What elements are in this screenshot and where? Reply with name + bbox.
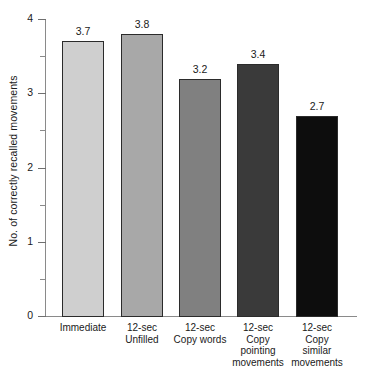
- bar-immediate: [62, 41, 104, 317]
- y-tick-1: [38, 242, 46, 243]
- y-tick-4: [38, 19, 46, 20]
- bar-12sec-copy-pointing-movements: [237, 64, 279, 317]
- y-minor-tick-2-5: [40, 130, 46, 131]
- bar-value-12sec-copy-pointing-movements: 3.4: [233, 49, 283, 60]
- cat-line: 12-sec: [279, 322, 355, 334]
- y-tick-label-4: 4: [9, 13, 33, 24]
- y-tick-0: [38, 316, 46, 317]
- y-axis-label: No. of correctly recalled movements: [7, 11, 19, 311]
- bar-value-12sec-unfilled: 3.8: [117, 19, 167, 30]
- bar-chart: No. of correctly recalled movements 4 3 …: [0, 0, 369, 392]
- cat-line: similar: [279, 345, 355, 357]
- cat-line: movements: [279, 357, 355, 369]
- y-tick-2: [38, 168, 46, 169]
- y-tick-label-3: 3: [9, 87, 33, 98]
- bar-12sec-unfilled: [121, 34, 163, 317]
- bar-12sec-copy-words: [179, 79, 221, 317]
- bar-value-immediate: 3.7: [58, 26, 108, 37]
- bar-value-12sec-copy-similar-movements: 2.7: [292, 101, 342, 112]
- y-tick-label-1: 1: [9, 236, 33, 247]
- y-tick-label-0: 0: [9, 310, 33, 321]
- y-minor-tick-1-5: [40, 205, 46, 206]
- cat-line: Copy: [279, 334, 355, 346]
- y-tick-3: [38, 93, 46, 94]
- bar-12sec-copy-similar-movements: [296, 116, 338, 317]
- y-tick-label-2: 2: [9, 162, 33, 173]
- y-minor-tick-0-5: [40, 279, 46, 280]
- bar-value-12sec-copy-words: 3.2: [175, 64, 225, 75]
- y-minor-tick-3-5: [40, 56, 46, 57]
- x-category-label-12sec-copy-similar-movements: 12-sec Copy similar movements: [279, 322, 355, 368]
